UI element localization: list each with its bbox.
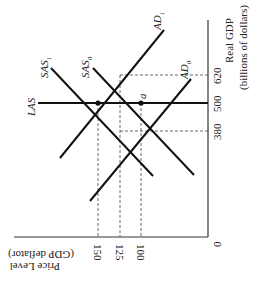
- price-tick-100: 100: [135, 244, 147, 261]
- sas1-label: SAS1: [38, 57, 53, 78]
- aggregate-supply-demand-chart: a LAS SAS1 SAS0 AD1 AD0 620 500 380 0 Re…: [0, 0, 257, 284]
- gdp-axis-subtitle: (billions of dollars): [237, 5, 250, 90]
- gdp-tick-620: 620: [211, 67, 223, 84]
- price-tick-125: 125: [114, 244, 126, 261]
- ad0-label: AD0: [178, 60, 193, 80]
- price-tick-150: 150: [92, 244, 104, 261]
- gdp-tick-500: 500: [211, 95, 223, 112]
- guide-lines: [98, 75, 208, 237]
- gdp-axis-title: Real GDP: [223, 18, 235, 63]
- point-a-label: a: [136, 93, 148, 99]
- price-axis-subtitle: (GDP deflator): [8, 248, 74, 261]
- sas0-curve: [93, 68, 194, 175]
- equilibrium-dot-a: [138, 100, 143, 105]
- sas1-curve: [51, 68, 153, 176]
- gdp-tick-380: 380: [211, 123, 223, 140]
- sas0-label: SAS0: [79, 56, 94, 78]
- las-label: LAS: [25, 97, 37, 117]
- origin-label: 0: [211, 241, 223, 247]
- ad1-label: AD1: [151, 12, 166, 31]
- price-axis-title: Price Level: [10, 261, 60, 273]
- equilibrium-dot-left: [95, 100, 100, 105]
